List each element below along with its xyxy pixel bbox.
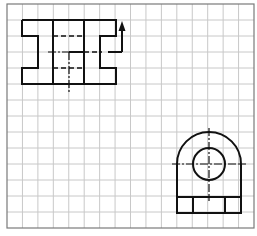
side-view	[172, 128, 246, 213]
technical-drawing-canvas	[0, 0, 257, 236]
section-arrow-icon	[119, 21, 126, 31]
grid-paper	[7, 4, 254, 228]
